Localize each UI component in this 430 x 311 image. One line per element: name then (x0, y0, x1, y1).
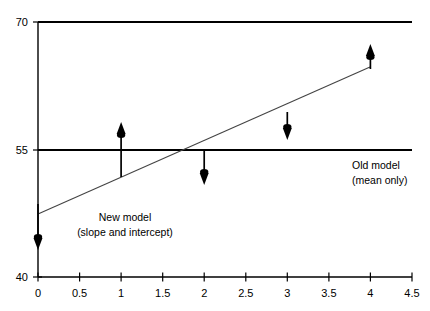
x-tick-label-3p5: 3.5 (321, 287, 336, 299)
residual-point-x1 (117, 132, 125, 138)
x-tick-label-0: 0 (35, 287, 41, 299)
residual-arrow-x0 (34, 204, 43, 250)
old-model-annotation-line1: Old model (352, 159, 400, 171)
residual-point-x2 (200, 169, 208, 175)
chart-canvas: 70 55 40 0 0.5 1 1.5 2 2.5 3 3.5 4 4.5 (0, 0, 430, 311)
residual-arrow-x4 (366, 44, 375, 69)
chart-figure: 70 55 40 0 0.5 1 1.5 2 2.5 3 3.5 4 4.5 (0, 0, 430, 311)
old-model-annotation-line2: (mean only) (352, 174, 407, 186)
x-tick-label-1p5: 1.5 (155, 287, 170, 299)
x-tick-label-3: 3 (284, 287, 290, 299)
x-tick-label-1: 1 (118, 287, 124, 299)
x-tick-label-4p5: 4.5 (404, 287, 419, 299)
residual-point-x4 (366, 54, 374, 60)
residual-arrow-x3 (283, 112, 292, 140)
y-tick-label-70: 70 (16, 16, 28, 28)
x-tick-label-0p5: 0.5 (72, 287, 87, 299)
x-tick-label-2: 2 (201, 287, 207, 299)
new-model-regression-line (38, 67, 370, 214)
y-tick-label-55: 55 (16, 144, 28, 156)
residual-point-x0 (34, 234, 42, 240)
x-tick-label-2p5: 2.5 (238, 287, 253, 299)
y-tick-label-40: 40 (16, 271, 28, 283)
new-model-annotation-line2: (slope and intercept) (77, 226, 173, 238)
residual-point-x3 (283, 124, 291, 130)
residual-arrow-x2 (200, 150, 209, 185)
x-tick-label-4: 4 (367, 287, 373, 299)
new-model-annotation-line1: New model (99, 211, 152, 223)
